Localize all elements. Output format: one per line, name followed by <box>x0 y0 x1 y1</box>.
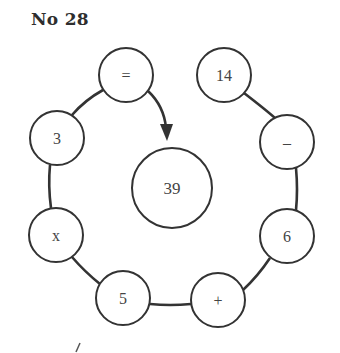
arrowhead-icon <box>160 124 173 141</box>
node-label: 5 <box>119 290 127 307</box>
result-node: 39 <box>132 148 212 228</box>
connector-3-equals <box>72 90 103 115</box>
node-label: – <box>282 134 292 151</box>
chain-node: x <box>29 208 83 262</box>
connector-plus-5 <box>150 304 191 305</box>
chain-node: 5 <box>96 271 150 325</box>
result-value: 39 <box>164 179 181 198</box>
chain-node: – <box>260 115 314 169</box>
chain-node: 6 <box>260 209 314 263</box>
chain-node: 3 <box>30 111 84 165</box>
node-label: 6 <box>283 228 291 245</box>
connector-minus-6 <box>296 168 297 210</box>
chain-node: = <box>99 48 153 102</box>
arrow-to-result <box>148 91 166 128</box>
node-label: + <box>213 292 222 309</box>
connector-6-plus <box>243 258 270 290</box>
number-chain-diagram: =14–6+5x3 39 <box>0 0 340 353</box>
chain-node: 14 <box>197 48 251 102</box>
chain-node: + <box>191 273 245 327</box>
connector-5-x <box>72 257 100 284</box>
node-label: x <box>52 227 60 244</box>
stray-mark <box>76 343 80 352</box>
node-label: 14 <box>216 67 232 84</box>
node-label: = <box>121 67 130 84</box>
node-label: 3 <box>53 130 61 147</box>
connector-14-minus <box>244 93 275 118</box>
connector-x-3 <box>49 165 51 208</box>
